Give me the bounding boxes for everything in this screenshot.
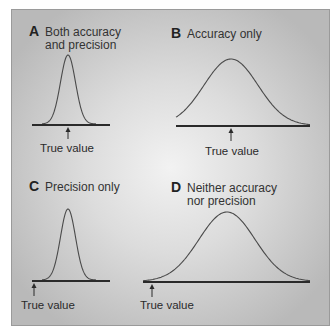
panel-b-true-value-arrow	[229, 128, 234, 141]
panel-b-title-line-1: Accuracy only	[187, 27, 262, 41]
panel-b-distribution-curve	[176, 59, 310, 125]
panel-d-title-line-2: nor precision	[187, 194, 256, 208]
panel-d-distribution-curve	[143, 212, 310, 281]
panel-a-title-line-1: Both accuracy	[45, 25, 121, 39]
panel-b-true-value-label: True value	[205, 145, 259, 157]
panel-d-title-line-1: Neither accuracy	[187, 181, 277, 195]
panel-c: C Precision only True value	[21, 178, 120, 311]
panel-d-letter: D	[171, 179, 181, 195]
panel-a: A Both accuracy and precision True value	[29, 23, 121, 154]
panel-c-distribution-curve	[42, 209, 96, 280]
panel-c-letter: C	[29, 178, 39, 194]
panel-a-title-line-2: and precision	[45, 38, 116, 52]
panel-a-letter: A	[29, 23, 39, 39]
panel-a-distribution-curve	[42, 55, 96, 124]
panel-d: D Neither accuracy nor precision True va…	[140, 179, 310, 311]
panel-a-true-value-arrow	[66, 127, 71, 139]
panel-b: B Accuracy only True value	[171, 25, 310, 157]
accuracy-precision-diagram: A Both accuracy and precision True value…	[0, 0, 336, 333]
panel-c-true-value-label: True value	[21, 299, 75, 311]
panel-c-true-value-arrow	[32, 283, 37, 296]
panel-a-true-value-label: True value	[40, 142, 94, 154]
panel-b-letter: B	[171, 25, 181, 41]
panel-c-title-line-1: Precision only	[45, 180, 120, 194]
panel-d-true-value-arrow	[150, 284, 155, 297]
panel-d-true-value-label: True value	[140, 299, 194, 311]
